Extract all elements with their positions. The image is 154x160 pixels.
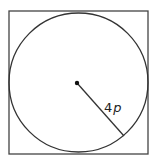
radius-label: 4p	[104, 100, 122, 115]
radius-label-variable: p	[112, 100, 121, 115]
inscribed-circle-diagram: 4p	[0, 0, 154, 160]
radius-label-coefficient: 4	[104, 100, 112, 115]
center-point	[75, 81, 79, 85]
